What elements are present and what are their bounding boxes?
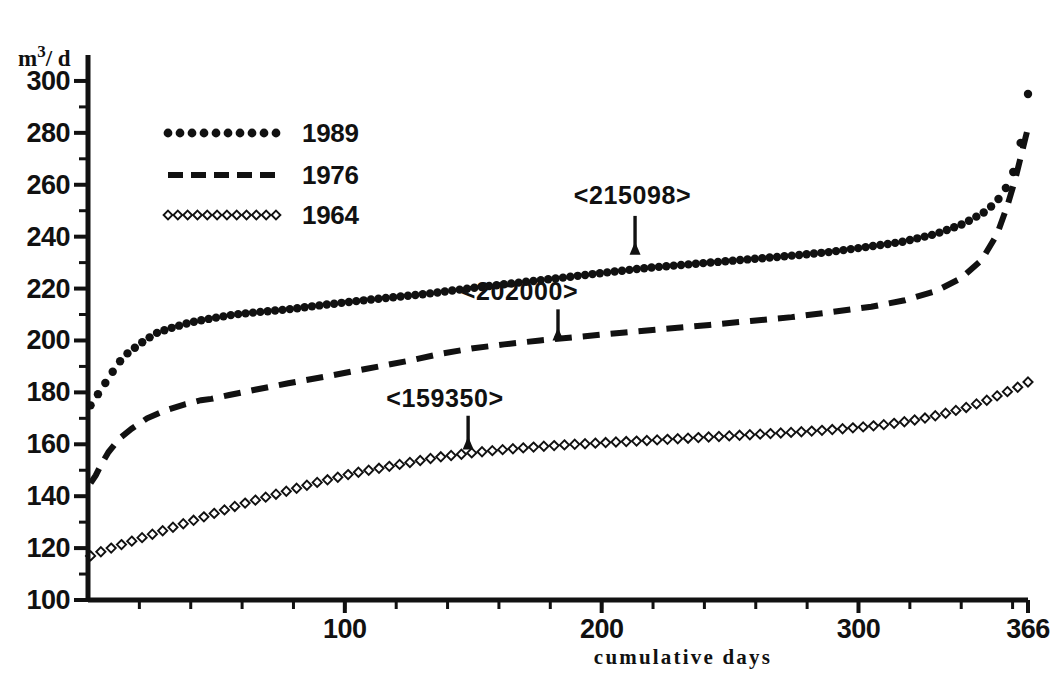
series-marker xyxy=(758,254,766,262)
series-marker xyxy=(313,478,322,487)
series-marker xyxy=(467,448,476,457)
series-marker xyxy=(539,442,548,451)
series-marker xyxy=(158,526,167,535)
series-marker xyxy=(670,261,678,269)
series-marker xyxy=(264,307,272,315)
series-marker xyxy=(385,462,394,471)
series-marker xyxy=(910,415,919,424)
series-marker xyxy=(825,248,833,256)
series-marker xyxy=(137,533,146,542)
legend-swatch-diamond xyxy=(213,211,222,220)
series-marker xyxy=(168,523,177,532)
series-marker xyxy=(271,490,280,499)
series-marker xyxy=(302,481,311,490)
series-marker xyxy=(838,424,847,433)
series-marker xyxy=(906,236,914,244)
series-marker xyxy=(529,442,538,451)
y-axis-tick-label: 120 xyxy=(26,533,70,564)
series-marker xyxy=(168,324,176,332)
series-marker xyxy=(957,220,965,228)
series-marker xyxy=(994,195,1002,203)
legend-swatch-diamond xyxy=(223,211,232,220)
series-marker xyxy=(330,299,338,307)
series-marker xyxy=(189,516,198,525)
series-marker xyxy=(776,428,785,437)
series-marker xyxy=(935,228,943,236)
series-marker xyxy=(603,268,611,276)
series-marker xyxy=(300,303,308,311)
series-marker xyxy=(766,429,775,438)
legend-swatch-dot xyxy=(224,129,233,138)
series-marker xyxy=(416,456,425,465)
series-marker xyxy=(278,306,286,314)
y-axis-tick-label: 300 xyxy=(26,65,70,96)
series-marker xyxy=(699,259,707,267)
legend-swatch-dot xyxy=(212,129,221,138)
series-marker xyxy=(315,301,323,309)
series-marker xyxy=(1024,90,1032,98)
series-marker xyxy=(780,252,788,260)
series-marker xyxy=(920,413,929,422)
series-marker xyxy=(817,426,826,435)
series-marker xyxy=(426,454,435,463)
annotation-arrow-head xyxy=(463,437,474,450)
legend-item-1964: 1964 xyxy=(302,200,359,231)
series-marker xyxy=(308,302,316,310)
series-marker xyxy=(797,427,806,436)
series-marker xyxy=(227,311,235,319)
series-marker xyxy=(633,265,641,273)
series-marker xyxy=(249,308,257,316)
annotation-label: <159350> xyxy=(386,383,503,412)
x-axis-title: cumulative days xyxy=(594,645,772,670)
legend-swatch-diamond xyxy=(164,211,173,220)
series-marker xyxy=(743,255,751,263)
series-marker xyxy=(673,434,682,443)
series-marker xyxy=(197,316,205,324)
series-marker xyxy=(987,202,995,210)
series-marker xyxy=(367,295,375,303)
x-axis-tick-label: 200 xyxy=(580,614,624,645)
annotation-arrow-head xyxy=(553,328,564,341)
series-marker xyxy=(610,267,618,275)
legend-swatch-dot xyxy=(272,129,281,138)
series-1964 xyxy=(86,377,1033,560)
series-marker xyxy=(786,428,795,437)
series-marker xyxy=(179,519,188,528)
series-marker xyxy=(382,294,390,302)
y-axis-tick-label: 240 xyxy=(26,221,70,252)
series-marker xyxy=(618,267,626,275)
series-marker xyxy=(389,293,397,301)
series-marker xyxy=(965,217,973,225)
series-marker xyxy=(828,425,837,434)
series-marker xyxy=(980,208,988,216)
series-marker xyxy=(404,291,412,299)
series-marker xyxy=(488,446,497,455)
series-marker xyxy=(854,244,862,252)
series-marker xyxy=(795,251,803,259)
series-marker xyxy=(647,263,655,271)
series-marker xyxy=(992,391,1001,400)
series-marker xyxy=(359,296,367,304)
series-marker xyxy=(519,443,528,452)
y-axis-tick-label: 100 xyxy=(26,585,70,616)
series-marker xyxy=(234,310,242,318)
series-marker xyxy=(396,292,404,300)
series-marker xyxy=(292,484,301,493)
series-marker xyxy=(653,435,662,444)
series-marker xyxy=(117,540,126,549)
series-marker xyxy=(729,256,737,264)
legend-swatch-dot xyxy=(236,129,245,138)
series-marker xyxy=(832,247,840,255)
series-marker xyxy=(889,419,898,428)
annotation-label: <202000> xyxy=(461,277,578,306)
series-marker xyxy=(588,270,596,278)
series-marker xyxy=(931,411,940,420)
annotation-arrow xyxy=(463,416,474,450)
series-marker xyxy=(913,234,921,242)
x-axis-tick-label: 366 xyxy=(1006,614,1050,645)
annotation-arrow-head xyxy=(630,242,641,255)
series-marker xyxy=(962,403,971,412)
legend-swatch-dot xyxy=(200,129,209,138)
series-marker xyxy=(182,319,190,327)
